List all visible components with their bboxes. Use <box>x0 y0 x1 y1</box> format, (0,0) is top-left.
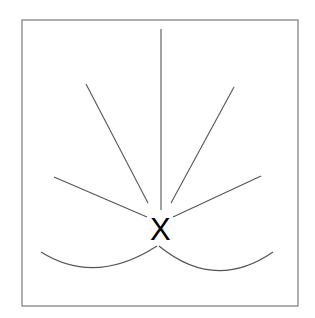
curve-left <box>41 246 157 268</box>
curve-right <box>159 246 273 271</box>
ray-lower-right <box>173 176 261 217</box>
ray-lower-left <box>54 177 147 217</box>
center-label: X <box>150 214 171 245</box>
ray-upper-right <box>171 87 234 203</box>
ray-upper-left <box>86 84 148 203</box>
diagram-canvas <box>0 0 315 318</box>
